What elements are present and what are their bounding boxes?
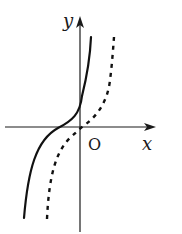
x-axis-label: x xyxy=(142,133,152,154)
function-graph: y O x xyxy=(0,0,182,234)
origin-label: O xyxy=(88,135,101,154)
y-axis-label: y xyxy=(62,10,74,31)
